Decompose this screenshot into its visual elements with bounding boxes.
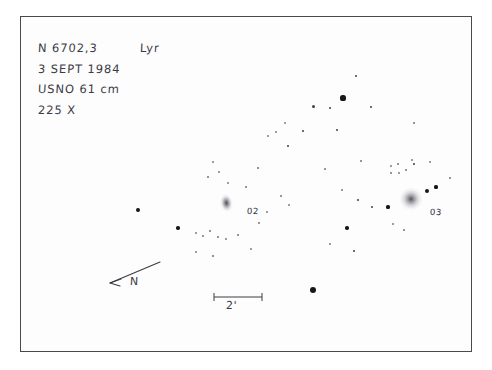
star: [340, 95, 345, 100]
star: [275, 131, 277, 133]
star: [449, 177, 451, 179]
star: [398, 172, 400, 174]
star: [212, 161, 214, 163]
galaxy-ngc6703: [396, 185, 426, 213]
star: [225, 238, 227, 240]
object-designation-label: N 6702,3: [37, 38, 98, 59]
star: [360, 160, 362, 162]
star: [434, 185, 437, 188]
star: [257, 167, 259, 169]
star: [202, 235, 204, 237]
star: [209, 230, 211, 232]
star: [217, 236, 219, 238]
star: [267, 135, 269, 137]
star: [312, 105, 315, 108]
star: [212, 255, 214, 257]
north-direction-label: N: [130, 275, 139, 288]
star: [227, 182, 229, 184]
star: [324, 168, 326, 170]
title-row: N 6702,3 Lyr: [38, 38, 238, 59]
star: [284, 122, 286, 124]
observation-date-label: 3 SEPT 1984: [37, 59, 238, 80]
star: [341, 189, 343, 191]
galaxy-label-ngc6703: 03: [430, 207, 443, 217]
star: [329, 243, 331, 245]
constellation-label: Lyr: [139, 38, 160, 59]
star: [390, 165, 392, 167]
star: [280, 195, 282, 197]
star: [397, 163, 399, 165]
star: [207, 176, 209, 178]
star: [345, 226, 348, 229]
star: [245, 186, 247, 188]
star: [195, 232, 197, 234]
scale-bar-label: 2': [226, 299, 238, 312]
star: [403, 229, 405, 231]
star: [218, 171, 220, 173]
observing-sketch-page: N 6702,3 Lyr 3 SEPT 1984 USNO 61 cm 225 …: [0, 0, 492, 370]
galaxy-label-ngc6702: 02: [247, 206, 260, 216]
star: [195, 251, 197, 253]
star: [258, 222, 260, 224]
star: [429, 161, 431, 163]
star: [386, 205, 389, 208]
star: [411, 159, 413, 161]
scale-bar-icon: [212, 292, 264, 302]
star: [405, 169, 407, 171]
star: [392, 223, 394, 225]
star: [237, 234, 239, 236]
star: [136, 208, 140, 212]
star: [250, 248, 252, 250]
instrument-label: USNO 61 cm: [37, 79, 238, 100]
star: [266, 211, 268, 213]
star: [390, 172, 392, 174]
star: [288, 204, 290, 206]
observation-annotations: N 6702,3 Lyr 3 SEPT 1984 USNO 61 cm 225 …: [38, 38, 238, 120]
star: [176, 226, 179, 229]
star: [413, 122, 415, 124]
magnification-label: 225 X: [37, 100, 238, 121]
